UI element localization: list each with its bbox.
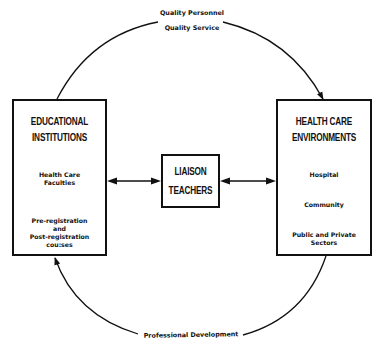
right-box-item-sectors: Sectors xyxy=(278,239,370,247)
bottom-arc-right xyxy=(243,256,326,335)
left-box-item-faculties: Faculties xyxy=(14,179,105,187)
top-arc-label-line2: Quality Service xyxy=(155,24,229,32)
bottom-arc-left-arrow xyxy=(55,258,138,334)
right-box-item-community: Community xyxy=(278,201,370,209)
left-box-item-health-care: Health Care xyxy=(14,171,105,179)
right-box-title-line1: HEALTH CARE xyxy=(286,115,361,128)
center-box-title-line2: TEACHERS xyxy=(168,184,213,197)
top-arc-left xyxy=(57,22,158,99)
center-box-title-line1: LIAISON xyxy=(168,165,213,178)
right-box-item-hospital: Hospital xyxy=(278,171,370,179)
left-box-item-pre-registration: Pre-registration xyxy=(14,217,105,225)
left-box-title-line2: INSTITUTIONS xyxy=(22,131,97,144)
left-box-item-post-registration: Post-registration xyxy=(14,233,105,241)
left-box-item-and: and xyxy=(14,225,105,233)
right-box-title-line2: ENVIRONMENTS xyxy=(286,131,361,144)
top-arc-right-arrow xyxy=(223,22,323,99)
top-arc-label-line1: Quality Personnel xyxy=(155,9,229,17)
liaison-teachers-box: LIAISON TEACHERS xyxy=(161,154,220,208)
right-box-item-public-private: Public and Private xyxy=(278,231,370,239)
educational-institutions-box: EDUCATIONAL INSTITUTIONS Health Care Fac… xyxy=(12,99,107,256)
left-box-title-line1: EDUCATIONAL xyxy=(22,115,97,128)
diagram-canvas: Quality Personnel Quality Service Profes… xyxy=(0,0,378,351)
left-box-item-courses: cou:ses xyxy=(14,241,105,249)
health-care-environments-box: HEALTH CARE ENVIRONMENTS Hospital Commun… xyxy=(276,99,372,256)
